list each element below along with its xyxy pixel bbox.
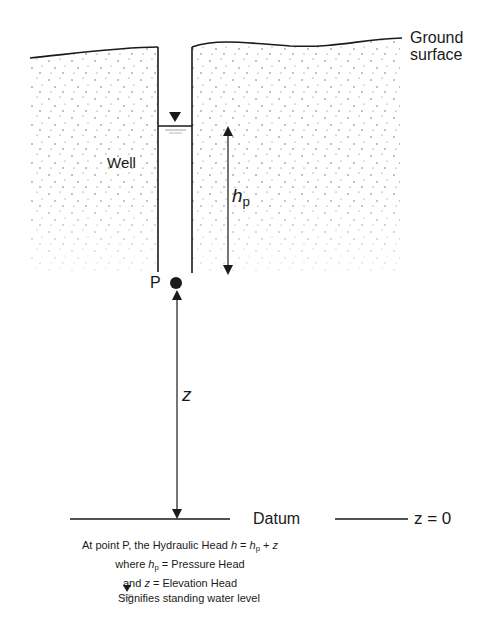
datum-label: Datum bbox=[253, 511, 300, 527]
elevation-label: z bbox=[182, 385, 192, 404]
soil-region bbox=[30, 39, 400, 272]
point-p-marker bbox=[170, 277, 182, 289]
ground-surface-label: Ground surface bbox=[410, 29, 463, 63]
caption-line-4: Signifies standing water level bbox=[0, 591, 360, 607]
caption-line-1: At point P, the Hydraulic Head h = hp + … bbox=[0, 538, 360, 557]
pressure-head-symbol: h bbox=[232, 185, 243, 206]
datum-equation-label: z = 0 bbox=[414, 510, 451, 527]
water-level-triangle-icon bbox=[169, 112, 181, 122]
pressure-head-label: hp bbox=[232, 186, 250, 208]
well-diagram bbox=[0, 0, 499, 628]
ground-surface-label-line1: Ground bbox=[410, 29, 463, 46]
well-label: Well bbox=[107, 155, 136, 170]
pressure-head-subscript: p bbox=[243, 194, 250, 209]
caption-line-3: and z = Elevation Head bbox=[0, 576, 360, 592]
ground-surface-label-line2: surface bbox=[410, 46, 463, 63]
point-p-label: P bbox=[150, 275, 161, 291]
caption: At point P, the Hydraulic Head h = hp + … bbox=[0, 538, 360, 607]
caption-line-2: where hp = Pressure Head bbox=[0, 557, 360, 576]
